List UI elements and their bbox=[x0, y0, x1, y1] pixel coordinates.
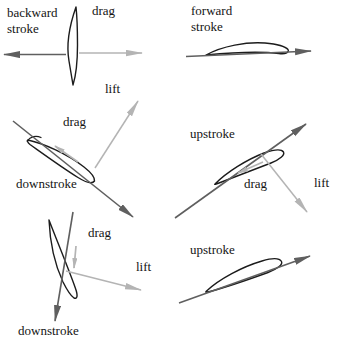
label-downstroke-bottom-lift: lift bbox=[136, 259, 151, 275]
diagram-canvas bbox=[0, 0, 337, 345]
downstroke-bottom-lift-arrow bbox=[66, 271, 141, 290]
label-downstroke: downstroke bbox=[16, 176, 77, 192]
label-forward-stroke: forward stroke bbox=[191, 3, 245, 36]
label-backward-drag: drag bbox=[92, 3, 115, 19]
wing-stroke-diagram: backward stroke drag forward stroke lift… bbox=[0, 0, 337, 345]
label-downstroke-drag: drag bbox=[63, 114, 86, 130]
upstroke-bottom-wing-airfoil bbox=[206, 259, 282, 292]
label-upstroke-lift: lift bbox=[314, 175, 329, 191]
label-downstroke-bottom: downstroke bbox=[18, 323, 79, 339]
downstroke-direction-arrow bbox=[13, 121, 133, 217]
label-backward-stroke: backward stroke bbox=[7, 5, 73, 38]
downstroke-lift-arrow bbox=[95, 101, 138, 168]
label-downstroke-lift: lift bbox=[105, 81, 120, 97]
downstroke-bottom-drag-arrow bbox=[74, 246, 76, 268]
upstroke-bottom-direction-arrow bbox=[179, 256, 310, 303]
label-upstroke-drag: drag bbox=[244, 176, 267, 192]
downstroke-bottom-wing-airfoil bbox=[49, 220, 77, 298]
upstroke-lift-arrow bbox=[261, 154, 307, 212]
label-upstroke: upstroke bbox=[190, 126, 235, 142]
label-downstroke-bottom-drag: drag bbox=[88, 225, 111, 241]
label-upstroke-bottom: upstroke bbox=[190, 242, 235, 258]
